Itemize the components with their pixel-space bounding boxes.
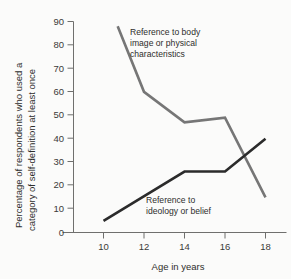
annotation-ideology-line2: ideology or belief — [146, 206, 212, 216]
y-tick-label-40: 40 — [53, 133, 64, 144]
y-tick-label-20: 20 — [53, 179, 64, 190]
x-tick-label-16: 16 — [220, 241, 231, 252]
chart-figure: 90 80 70 60 50 40 30 20 10 0 10 12 14 16… — [0, 0, 291, 279]
y-tick-label-60: 60 — [53, 86, 64, 97]
x-axis-title: Age in years — [152, 261, 205, 272]
annotation-body-image-line2: image or physical — [130, 38, 197, 48]
y-tick-label-0: 0 — [59, 227, 64, 238]
y-axis-title-line2: category of self-definition at least onc… — [26, 69, 37, 231]
x-axis-tick-labels: 10 12 14 16 18 — [98, 241, 271, 252]
x-axis-ticks — [104, 233, 266, 239]
x-tick-label-10: 10 — [98, 241, 109, 252]
y-tick-label-50: 50 — [53, 109, 64, 120]
y-tick-label-10: 10 — [53, 203, 64, 214]
y-tick-label-90: 90 — [53, 16, 64, 27]
annotation-body-image: Reference to body image or physical char… — [130, 27, 201, 59]
y-tick-label-70: 70 — [53, 63, 64, 74]
y-axis-tick-labels: 90 80 70 60 50 40 30 20 10 0 — [53, 16, 64, 238]
annotation-ideology-line1: Reference to — [146, 195, 195, 205]
y-tick-label-30: 30 — [53, 156, 64, 167]
x-tick-label-14: 14 — [179, 241, 190, 252]
line-chart-canvas: 90 80 70 60 50 40 30 20 10 0 10 12 14 16… — [0, 0, 291, 279]
annotation-body-image-line1: Reference to body — [130, 27, 201, 37]
y-tick-label-80: 80 — [53, 39, 64, 50]
x-tick-label-12: 12 — [139, 241, 150, 252]
y-axis-title-line1: Percentage of respondents who used a — [13, 62, 24, 228]
annotation-ideology: Reference to ideology or belief — [146, 195, 212, 216]
y-axis-ticks — [68, 22, 74, 209]
x-tick-label-18: 18 — [260, 241, 271, 252]
annotation-body-image-line3: characteristics — [130, 49, 185, 59]
